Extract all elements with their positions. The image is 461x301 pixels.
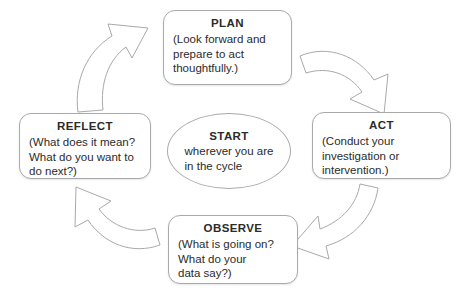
arrow-act-to-observe xyxy=(292,184,378,259)
stage-observe-line-1: (What is going on? xyxy=(178,237,288,252)
arrow-reflect-to-plan xyxy=(77,24,148,112)
stage-reflect-body: (What does it mean? What do you want to … xyxy=(29,135,141,179)
center-start-title: START xyxy=(209,129,248,144)
center-start-body: wherever you are in the cycle xyxy=(185,144,274,173)
stage-plan-line-2: prepare to act xyxy=(173,47,282,62)
stage-observe-body: (What is going on? What do your data say… xyxy=(178,237,288,281)
arrow-plan-to-act xyxy=(300,51,388,114)
stage-plan[interactable]: PLAN (Look forward and prepare to act th… xyxy=(163,10,292,85)
stage-plan-line-3: thoughtfully.) xyxy=(173,61,282,76)
stage-reflect-line-3: do next?) xyxy=(29,164,141,179)
stage-act-line-3: intervention.) xyxy=(322,163,441,178)
stage-act-title: ACT xyxy=(322,118,441,133)
stage-plan-title: PLAN xyxy=(173,16,282,31)
diagram-canvas: PLAN (Look forward and prepare to act th… xyxy=(0,0,461,301)
stage-reflect-line-1: (What does it mean? xyxy=(29,135,141,150)
stage-act[interactable]: ACT (Conduct your investigation or inter… xyxy=(312,112,451,179)
center-start[interactable]: START wherever you are in the cycle xyxy=(167,113,291,189)
stage-plan-line-1: (Look forward and xyxy=(173,32,282,47)
stage-observe[interactable]: OBSERVE (What is going on? What do your … xyxy=(168,215,298,284)
stage-reflect[interactable]: REFLECT (What does it mean? What do you … xyxy=(19,113,151,179)
stage-observe-line-3: data say?) xyxy=(178,266,288,281)
center-start-line-1: wherever you are xyxy=(185,144,274,159)
stage-act-line-2: investigation or xyxy=(322,149,441,164)
stage-observe-title: OBSERVE xyxy=(178,221,288,236)
stage-reflect-title: REFLECT xyxy=(29,119,141,134)
center-start-line-2: in the cycle xyxy=(185,159,274,174)
stage-act-line-1: (Conduct your xyxy=(322,134,441,149)
stage-plan-body: (Look forward and prepare to act thought… xyxy=(173,32,282,76)
arrow-observe-to-reflect xyxy=(75,187,160,249)
stage-act-body: (Conduct your investigation or intervent… xyxy=(322,134,441,178)
stage-reflect-line-2: What do you want to xyxy=(29,150,141,165)
stage-observe-line-2: What do your xyxy=(178,252,288,267)
